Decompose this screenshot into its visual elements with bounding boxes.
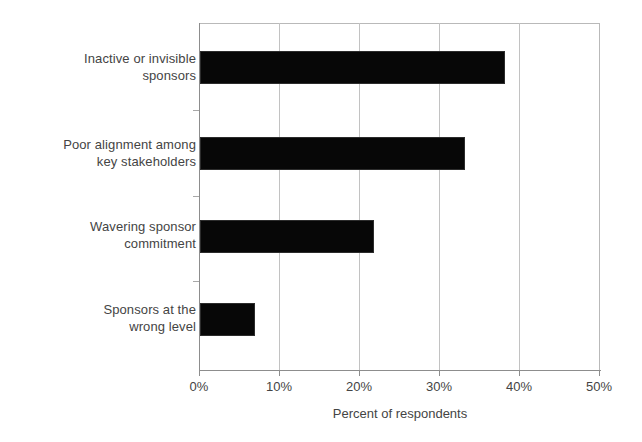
y-axis-tick-2 xyxy=(193,196,199,197)
y-axis-tick-1 xyxy=(193,110,199,111)
bar-chart: Inactive or invisible sponsors Poor alig… xyxy=(0,0,642,442)
category-label-inactive-or-invisible-sponsors: Inactive or invisible sponsors xyxy=(0,50,196,84)
bar-wavering-sponsor-commitment xyxy=(200,220,374,253)
x-axis-tick-10 xyxy=(279,370,280,376)
category-label-wavering-sponsor-commitment: Wavering sponsor commitment xyxy=(0,218,196,252)
x-axis-tick-label-20: 20% xyxy=(324,379,394,394)
x-axis-tick-50 xyxy=(599,370,600,376)
x-axis-tick-label-30: 30% xyxy=(404,379,474,394)
x-axis-tick-label-50: 50% xyxy=(564,379,634,394)
x-axis-tick-20 xyxy=(359,370,360,376)
category-label-sponsors-at-the-wrong-level: Sponsors at the wrong level xyxy=(0,301,196,335)
x-axis-title: Percent of respondents xyxy=(199,406,601,421)
x-axis-line xyxy=(199,370,601,371)
x-axis-tick-label-10: 10% xyxy=(244,379,314,394)
x-axis-tick-label-0: 0% xyxy=(164,379,234,394)
x-axis-tick-30 xyxy=(439,370,440,376)
category-label-poor-alignment-among-key-stakeholders: Poor alignment among key stakeholders xyxy=(0,136,196,170)
bar-inactive-or-invisible-sponsors xyxy=(200,51,505,84)
x-axis-tick-40 xyxy=(519,370,520,376)
bar-sponsors-at-the-wrong-level xyxy=(200,303,255,336)
x-axis-tick-0 xyxy=(199,370,200,376)
gridline-40-percent xyxy=(519,23,520,370)
y-axis-tick-3 xyxy=(193,281,199,282)
x-axis-tick-label-40: 40% xyxy=(484,379,554,394)
bar-poor-alignment-among-key-stakeholders xyxy=(200,137,465,170)
